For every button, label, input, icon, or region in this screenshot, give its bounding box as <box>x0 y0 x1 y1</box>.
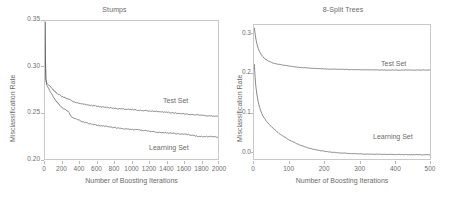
y-tick-label: 0.0 <box>227 149 251 156</box>
y-tick-label: 0.1 <box>227 109 251 116</box>
chart-title-eight-split-trees: 8-Split Trees <box>229 6 457 13</box>
x-tick-label: 400 <box>385 166 405 173</box>
x-tick-label: 300 <box>350 166 370 173</box>
x-tick-mark <box>184 161 185 164</box>
y-tick-label: 0.25 <box>16 109 40 116</box>
x-tick-mark <box>253 161 254 164</box>
x-axis-title-stumps: Number of Boosting Iterations <box>44 177 219 184</box>
chart-title-stumps: Stumps <box>0 6 229 13</box>
x-tick-mark <box>44 161 45 164</box>
x-tick-label: 500 <box>420 166 440 173</box>
x-tick-mark <box>324 161 325 164</box>
chart-panel-stumps: Stumps Misclassification Rate 0.20 0.25 … <box>0 0 229 197</box>
learning-set-label: Learning Set <box>373 133 413 140</box>
test-set-label: Test Set <box>381 60 406 67</box>
x-tick-mark <box>62 161 63 164</box>
x-tick-mark <box>395 161 396 164</box>
learning-set-label: Learning Set <box>149 144 189 151</box>
x-tick-mark <box>360 161 361 164</box>
boosting-comparison-figure: Stumps Misclassification Rate 0.20 0.25 … <box>0 0 457 197</box>
x-tick-label: 2000 <box>209 166 229 173</box>
x-tick-mark <box>167 161 168 164</box>
x-axis-title-eight-split-trees: Number of Boosting Iterations <box>253 177 431 184</box>
series-line-learning-set <box>45 22 218 138</box>
y-tick-label: 0.2 <box>227 69 251 76</box>
y-tick-label: 0.30 <box>16 63 40 70</box>
x-tick-label: 0 <box>243 166 263 173</box>
series-line-test-set <box>45 22 218 117</box>
test-set-label: Test Set <box>163 97 188 104</box>
y-axis-title-stumps: Misclassification Rate <box>9 75 16 142</box>
y-tick-label: 0.3 <box>227 30 251 37</box>
x-tick-mark <box>79 161 80 164</box>
plot-area-stumps <box>44 20 219 160</box>
y-tick-label: 0.20 <box>16 156 40 163</box>
x-tick-mark <box>114 161 115 164</box>
chart-panel-eight-split-trees: 8-Split Trees Misclassification Rate 0.0… <box>229 0 457 197</box>
x-tick-label: 200 <box>314 166 334 173</box>
x-tick-mark <box>202 161 203 164</box>
x-tick-mark <box>97 161 98 164</box>
x-tick-label: 100 <box>279 166 299 173</box>
y-tick-label: 0.35 <box>16 16 40 23</box>
x-tick-mark <box>132 161 133 164</box>
x-tick-mark <box>218 161 219 164</box>
plot-curves-stumps <box>45 21 218 159</box>
x-tick-mark <box>430 161 431 164</box>
series-line-learning-set <box>254 64 430 155</box>
x-tick-mark <box>149 161 150 164</box>
x-tick-mark <box>289 161 290 164</box>
